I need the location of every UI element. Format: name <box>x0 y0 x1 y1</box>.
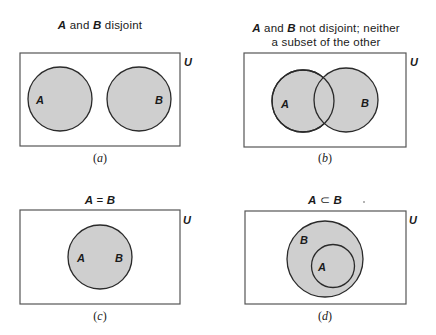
set-a-label: A <box>280 98 289 110</box>
set-a-label: A <box>317 261 326 273</box>
panel-a-title: A and B disjoint <box>57 19 143 31</box>
panel-b-overlapping: A and B not disjoint; neither a subset o… <box>244 22 419 165</box>
panel-b-title-line2: a subset of the other <box>271 36 380 48</box>
universe-label: U <box>183 214 192 226</box>
panel-d-subset: A ⊂ B U B A (d) <box>245 194 418 323</box>
universe-label: U <box>410 56 419 68</box>
set-b-label: B <box>300 234 308 246</box>
set-b-label: B <box>115 252 123 264</box>
panel-d-title: A ⊂ B <box>307 194 342 206</box>
panel-b-caption: (b) <box>318 151 332 165</box>
panel-c-equal: A = B U A B (c) <box>20 194 192 323</box>
panel-b-title: A and B not disjoint; neither <box>251 22 400 34</box>
venn-diagram-figure: A and B disjoint U A B (a) A and B not d… <box>0 0 436 335</box>
panel-a-disjoint: A and B disjoint U A B (a) <box>20 19 193 165</box>
set-a-label: A <box>35 94 44 106</box>
panel-d-caption: (d) <box>318 309 332 323</box>
panel-c-caption: (c) <box>93 309 106 323</box>
set-b-label: B <box>155 94 163 106</box>
stray-dot <box>363 201 365 203</box>
universe-label: U <box>409 214 418 226</box>
set-a-label: A <box>76 252 85 264</box>
panel-c-title: A = B <box>84 194 116 206</box>
universe-label: U <box>184 56 193 68</box>
panel-a-caption: (a) <box>93 151 107 165</box>
set-b-label: B <box>361 97 369 109</box>
